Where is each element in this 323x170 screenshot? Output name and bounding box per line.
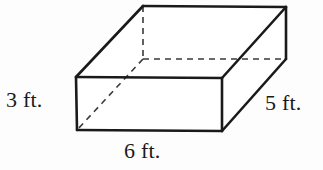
edge-front-left-vertical <box>76 77 77 130</box>
dimension-label-width: 6 ft. <box>124 140 160 162</box>
dimension-label-depth: 5 ft. <box>265 92 301 114</box>
front-face <box>76 77 222 131</box>
edge-front-bottom <box>77 130 222 131</box>
prism-diagram: 3 ft. 6 ft. 5 ft. <box>0 0 323 170</box>
prism-drawing <box>0 0 323 170</box>
edge-front-top <box>76 77 222 78</box>
dimension-label-height: 3 ft. <box>6 89 42 111</box>
edge-top-back <box>143 6 286 7</box>
